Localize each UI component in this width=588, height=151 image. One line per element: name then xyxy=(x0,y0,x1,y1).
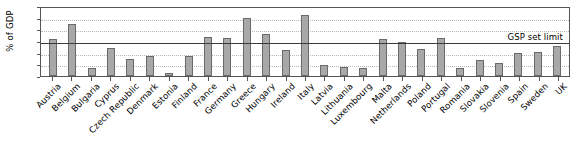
bar[interactable] xyxy=(282,50,290,76)
bar-slot xyxy=(179,8,198,76)
x-axis-tick-label: UK xyxy=(554,81,570,97)
bar-chart: % of GDP GSP set limit 020406080100120 A… xyxy=(0,0,588,151)
bar-slot xyxy=(392,8,411,76)
bar-slot xyxy=(334,8,353,76)
bar[interactable] xyxy=(185,56,193,76)
bar[interactable] xyxy=(340,67,348,76)
bar-slot xyxy=(315,8,334,76)
bar-slot xyxy=(140,8,159,76)
bar-slot xyxy=(509,8,528,76)
bar-slot xyxy=(489,8,508,76)
bar[interactable] xyxy=(68,24,76,76)
bar[interactable] xyxy=(456,68,464,76)
bar-slot xyxy=(276,8,295,76)
bar[interactable] xyxy=(359,68,367,76)
y-axis-tick-mark xyxy=(37,54,40,55)
bar[interactable] xyxy=(476,60,484,76)
bar[interactable] xyxy=(126,59,134,77)
bar-slot xyxy=(198,8,217,76)
y-axis-tick-mark xyxy=(37,65,40,66)
y-axis-tick-mark xyxy=(37,42,40,43)
x-axis-labels: AustriaBelgiumBulgariaCyprusCzech Republ… xyxy=(40,81,570,151)
y-axis-tick-mark xyxy=(37,30,40,31)
bar[interactable] xyxy=(146,56,154,76)
bar-slot xyxy=(373,8,392,76)
bar[interactable] xyxy=(417,49,425,76)
bar-slot xyxy=(218,8,237,76)
bar-slot xyxy=(82,8,101,76)
gsp-limit-label: GSP set limit xyxy=(508,32,564,42)
bar-slot xyxy=(431,8,450,76)
bar[interactable] xyxy=(320,65,328,76)
bar-slot xyxy=(354,8,373,76)
bar-slot xyxy=(101,8,120,76)
bar[interactable] xyxy=(398,42,406,76)
bar-slot xyxy=(62,8,81,76)
bar-slot xyxy=(159,8,178,76)
bar[interactable] xyxy=(514,53,522,76)
y-axis-tick-mark xyxy=(37,7,40,8)
bar-slot xyxy=(451,8,470,76)
bar[interactable] xyxy=(379,39,387,76)
plot-area: GSP set limit xyxy=(40,7,570,77)
bar[interactable] xyxy=(49,39,57,76)
bar[interactable] xyxy=(165,73,173,76)
bar-slot xyxy=(237,8,256,76)
gsp-limit-line xyxy=(41,43,569,44)
bar[interactable] xyxy=(301,15,309,76)
bar[interactable] xyxy=(262,34,270,76)
bar[interactable] xyxy=(88,68,96,76)
bar-series xyxy=(41,8,569,76)
bar[interactable] xyxy=(243,18,251,76)
bar-slot xyxy=(412,8,431,76)
bar[interactable] xyxy=(495,63,503,76)
bar-slot xyxy=(548,8,567,76)
bar-slot xyxy=(470,8,489,76)
bar-slot xyxy=(121,8,140,76)
bar-slot xyxy=(43,8,62,76)
bar-slot xyxy=(528,8,547,76)
y-axis-tick-mark xyxy=(37,19,40,20)
bar[interactable] xyxy=(534,52,542,77)
bar-slot xyxy=(295,8,314,76)
bar[interactable] xyxy=(553,46,561,76)
y-axis-title: % of GDP xyxy=(5,0,15,62)
bar[interactable] xyxy=(107,48,115,76)
bar-slot xyxy=(256,8,275,76)
